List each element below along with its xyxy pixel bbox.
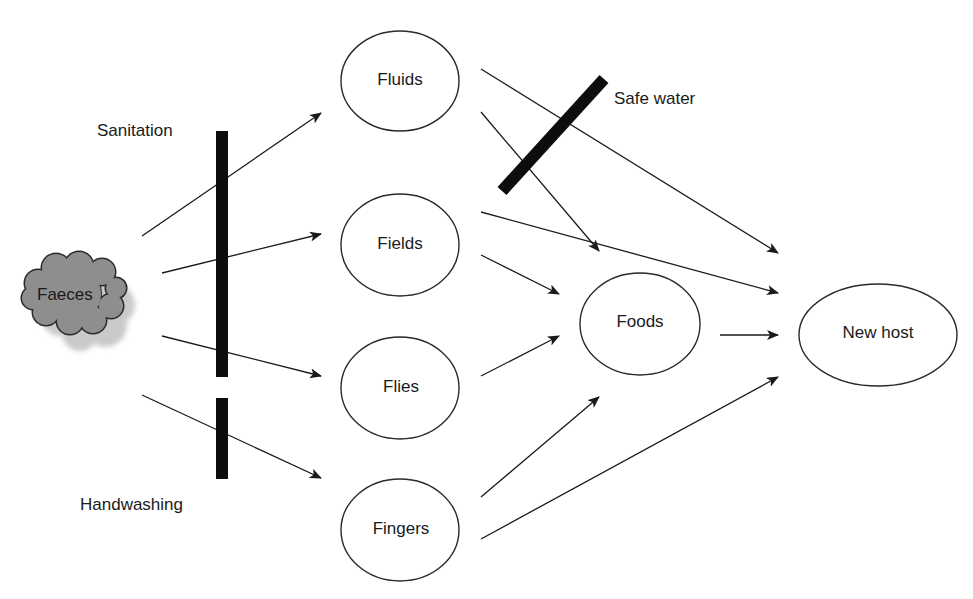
edge-fluids-foods	[481, 112, 599, 251]
safe-water-label: Safe water	[614, 89, 696, 108]
foods-label: Foods	[616, 312, 663, 331]
edge-fields-foods	[481, 255, 559, 294]
fingers-label: Fingers	[373, 519, 430, 538]
node-fingers: Fingers	[341, 479, 459, 581]
edge-faeces-flies	[162, 336, 321, 376]
faeces-cloud: Faeces	[21, 251, 136, 352]
node-fluids: Fluids	[341, 31, 459, 131]
edge-fingers-new-host	[481, 377, 778, 539]
handwashing-label: Handwashing	[80, 495, 183, 514]
f-diagram: Faeces Sanitation Handwashing Safe water…	[0, 0, 973, 599]
new-host-label: New host	[843, 323, 914, 342]
fluids-label: Fluids	[377, 70, 422, 89]
sanitation-label: Sanitation	[97, 121, 173, 140]
fields-label: Fields	[377, 234, 422, 253]
sanitation-barrier	[216, 131, 228, 377]
node-new-host: New host	[799, 284, 957, 386]
faeces-label: Faeces	[37, 285, 93, 304]
edge-flies-foods	[481, 336, 559, 376]
edge-fingers-foods	[481, 397, 599, 497]
flies-label: Flies	[383, 377, 419, 396]
edge-faeces-fields	[162, 234, 321, 273]
node-flies: Flies	[341, 337, 459, 439]
handwashing-barrier	[216, 398, 228, 479]
edge-faeces-fingers	[142, 395, 321, 478]
node-foods: Foods	[580, 273, 700, 375]
node-fields: Fields	[341, 194, 459, 296]
